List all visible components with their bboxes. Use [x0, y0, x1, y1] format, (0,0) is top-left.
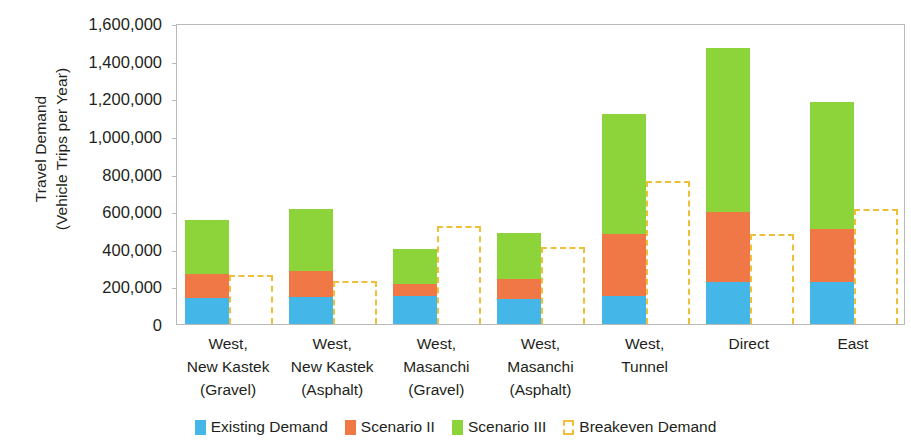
stacked-bar[interactable] [602, 114, 646, 324]
x-axis-category-label-line: Tunnel [593, 355, 697, 378]
x-axis-category-label-line: New Kastek [280, 355, 384, 378]
bar-group [802, 25, 906, 324]
y-axis-tick-mark [172, 63, 177, 64]
bar-segment-existing-demand[interactable] [497, 299, 541, 324]
bar-group [177, 25, 281, 324]
x-axis-category-label-line: Masanchi [488, 355, 592, 378]
bar-segment-scenario-ii[interactable] [810, 229, 854, 282]
breakeven-demand-outline[interactable] [333, 281, 377, 324]
bar-segment-scenario-ii[interactable] [289, 271, 333, 296]
legend-item[interactable]: Scenario III [452, 418, 546, 436]
bar-segment-scenario-iii[interactable] [185, 220, 229, 275]
x-axis-tick-labels: West,New Kastek(Gravel)West,New Kastek(A… [176, 332, 905, 414]
legend-swatch-icon [345, 420, 356, 435]
x-axis-category-label-line: (Gravel) [176, 378, 280, 401]
y-axis-tick-label: 800,000 [102, 166, 162, 184]
bar-segment-scenario-iii[interactable] [810, 102, 854, 229]
x-axis-category-label-line: West, [280, 332, 384, 355]
y-axis-tick-mark [172, 251, 177, 252]
bar-segment-existing-demand[interactable] [810, 282, 854, 324]
bar-group [594, 25, 698, 324]
x-axis-category-label: West,Masanchi(Asphalt) [488, 332, 592, 401]
legend-swatch-icon [563, 420, 574, 435]
bar-segment-scenario-ii[interactable] [393, 284, 437, 296]
bar-group [489, 25, 593, 324]
bar-segment-scenario-iii[interactable] [706, 48, 750, 212]
legend-item[interactable]: Scenario II [345, 418, 435, 436]
x-axis-category-label-line: New Kastek [176, 355, 280, 378]
y-axis-tick-label: 600,000 [102, 203, 162, 221]
x-axis-category-label-line: West, [384, 332, 488, 355]
chart-legend: Existing DemandScenario IIScenario IIIBr… [0, 418, 911, 436]
legend-item[interactable]: Existing Demand [195, 418, 328, 436]
breakeven-demand-outline[interactable] [854, 209, 898, 324]
stacked-bar[interactable] [289, 209, 333, 324]
x-axis-category-label: West,New Kastek(Asphalt) [280, 332, 384, 401]
bar-group [698, 25, 802, 324]
x-axis-category-label: West,Masanchi(Gravel) [384, 332, 488, 401]
breakeven-demand-outline[interactable] [437, 226, 481, 324]
y-axis-tick-label: 1,000,000 [89, 128, 162, 146]
y-axis-tick-mark [172, 138, 177, 139]
x-axis-category-label: East [801, 332, 905, 355]
y-axis-tick-label: 1,600,000 [89, 15, 162, 33]
legend-label: Existing Demand [211, 418, 328, 436]
bar-group [385, 25, 489, 324]
bar-segment-existing-demand[interactable] [706, 282, 750, 324]
y-axis-tick-mark [172, 213, 177, 214]
y-axis-tick-mark [172, 25, 177, 26]
breakeven-demand-outline[interactable] [229, 275, 273, 324]
stacked-bar[interactable] [497, 233, 541, 324]
legend-label: Scenario II [361, 418, 435, 436]
x-axis-category-label-line: West, [593, 332, 697, 355]
bar-segment-existing-demand[interactable] [185, 298, 229, 324]
bar-segment-scenario-iii[interactable] [497, 233, 541, 279]
bar-segment-scenario-iii[interactable] [393, 249, 437, 284]
y-axis-tick-label: 400,000 [102, 241, 162, 259]
y-axis-tick-mark [172, 176, 177, 177]
x-axis-category-label-line: West, [488, 332, 592, 355]
legend-label: Scenario III [468, 418, 546, 436]
x-axis-category-label-line: Masanchi [384, 355, 488, 378]
bar-segment-existing-demand[interactable] [289, 297, 333, 324]
y-axis-tick-mark [172, 288, 177, 289]
breakeven-demand-outline[interactable] [750, 234, 794, 324]
bar-segment-existing-demand[interactable] [602, 296, 646, 324]
y-axis-tick-label: 1,400,000 [89, 53, 162, 71]
legend-swatch-icon [452, 420, 463, 435]
breakeven-demand-outline[interactable] [646, 181, 690, 324]
x-axis-category-label-line: (Gravel) [384, 378, 488, 401]
x-axis-category-label: Direct [697, 332, 801, 355]
x-axis-category-label-line: West, [176, 332, 280, 355]
plot-area [176, 24, 905, 325]
breakeven-demand-outline[interactable] [541, 247, 585, 324]
stacked-bar[interactable] [810, 102, 854, 324]
bar-segment-scenario-ii[interactable] [602, 234, 646, 296]
y-axis-tick-mark [172, 100, 177, 101]
bar-group [281, 25, 385, 324]
bar-segment-scenario-iii[interactable] [602, 114, 646, 233]
y-axis-tick-labels: 1,600,0001,400,0001,200,0001,000,000800,… [40, 0, 168, 447]
legend-swatch-icon [195, 420, 206, 435]
x-axis-category-label: West,Tunnel [593, 332, 697, 378]
bar-segment-scenario-ii[interactable] [497, 279, 541, 299]
stacked-bar[interactable] [393, 249, 437, 324]
x-axis-category-label-line: Direct [697, 332, 801, 355]
bar-segment-scenario-ii[interactable] [706, 212, 750, 282]
legend-label: Breakeven Demand [579, 418, 716, 436]
x-axis-category-label-line: (Asphalt) [488, 378, 592, 401]
bar-segment-scenario-ii[interactable] [185, 274, 229, 298]
x-axis-category-label: West,New Kastek(Gravel) [176, 332, 280, 401]
y-axis-tick-label: 0 [153, 316, 162, 334]
bars-layer [177, 25, 904, 324]
y-axis-tick-label: 200,000 [102, 278, 162, 296]
bar-segment-scenario-iii[interactable] [289, 209, 333, 271]
travel-demand-chart: Travel Demand (Vehicle Trips per Year) 1… [0, 0, 911, 447]
stacked-bar[interactable] [706, 48, 750, 324]
x-axis-category-label-line: (Asphalt) [280, 378, 384, 401]
legend-item[interactable]: Breakeven Demand [563, 418, 716, 436]
bar-segment-existing-demand[interactable] [393, 296, 437, 324]
stacked-bar[interactable] [185, 220, 229, 324]
x-axis-category-label-line: East [801, 332, 905, 355]
y-axis-tick-label: 1,200,000 [89, 90, 162, 108]
